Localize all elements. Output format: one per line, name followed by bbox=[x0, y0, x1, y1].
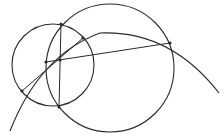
diagram-canvas bbox=[0, 0, 224, 136]
small-circle bbox=[12, 24, 94, 106]
center-point bbox=[58, 58, 61, 61]
large-arc bbox=[10, 33, 219, 131]
bottom-intersection bbox=[57, 105, 60, 108]
upper-right-point bbox=[81, 36, 84, 39]
top-intersection bbox=[59, 22, 62, 25]
vertical-chord bbox=[59, 24, 61, 107]
large-circle bbox=[46, 4, 174, 132]
arc-left-point bbox=[44, 60, 47, 63]
geometry-diagram bbox=[0, 0, 224, 136]
left-point bbox=[20, 89, 23, 92]
diagonal-chord bbox=[22, 38, 83, 91]
right-point bbox=[168, 41, 171, 44]
